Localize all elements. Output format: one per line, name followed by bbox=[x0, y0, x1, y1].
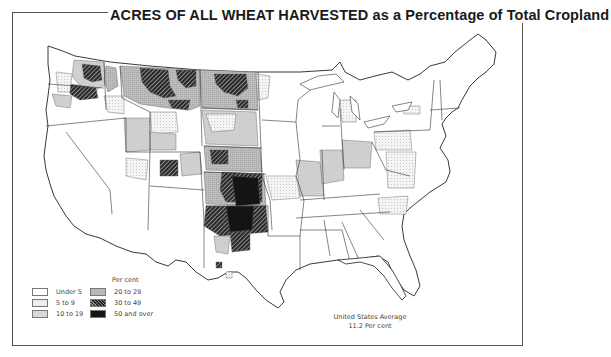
title-rest: as a Percentage of Total Cropland bbox=[373, 7, 610, 23]
swatch-white bbox=[32, 288, 48, 296]
legend-label: 50 and over bbox=[114, 310, 153, 318]
average-line2: 11.2 Per cent bbox=[348, 322, 391, 330]
legend-title: Per cent bbox=[112, 276, 139, 284]
legend-label: 30 to 49 bbox=[114, 299, 141, 307]
legend-label: 20 to 29 bbox=[114, 288, 141, 296]
average-line1: United States Average bbox=[334, 313, 407, 321]
legend-item-5-to-9: 5 to 9 bbox=[32, 299, 75, 307]
swatch-grey bbox=[90, 288, 106, 296]
legend-item-50-and-over: 50 and over bbox=[90, 310, 153, 318]
legend-item-under-5: Under 5 bbox=[32, 288, 82, 296]
swatch-light-dots bbox=[32, 299, 48, 307]
title-caps: ACRES OF ALL WHEAT HARVESTED bbox=[110, 7, 368, 23]
legend-item-30-to-49: 30 to 49 bbox=[90, 299, 141, 307]
legend-label: 5 to 9 bbox=[56, 299, 75, 307]
swatch-black bbox=[90, 310, 106, 318]
swatch-hatch bbox=[90, 299, 106, 307]
legend-label: 10 to 19 bbox=[56, 310, 83, 318]
swatch-medium-dots bbox=[32, 310, 48, 318]
legend-label: Under 5 bbox=[56, 288, 82, 296]
legend-item-10-to-19: 10 to 19 bbox=[32, 310, 83, 318]
map-title: ACRES OF ALL WHEAT HARVESTED as a Percen… bbox=[108, 7, 611, 23]
legend-item-20-to-29: 20 to 29 bbox=[90, 288, 141, 296]
